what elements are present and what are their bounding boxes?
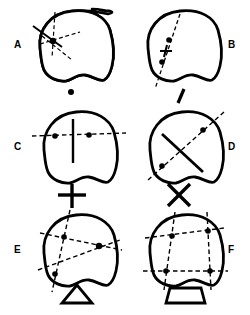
marked-point-c-2 <box>86 132 92 138</box>
marked-point-f-4 <box>207 268 213 274</box>
construction-dashed-c <box>32 133 126 136</box>
marked-point-f-2 <box>205 228 211 234</box>
marked-point-f-3 <box>163 268 169 274</box>
marked-point-d-2 <box>200 127 206 133</box>
panel-label-f: F <box>228 245 234 255</box>
line-symbol <box>178 89 184 103</box>
marked-point-b-2 <box>159 59 165 65</box>
panel-label-a: A <box>14 40 21 50</box>
marked-point-e-2 <box>52 271 58 277</box>
figure-root: A B C D E F <box>0 0 250 315</box>
blob-outline-a <box>40 9 114 81</box>
marked-point-e-1 <box>61 234 67 240</box>
marked-point-e-3 <box>96 243 102 249</box>
trapezoid-symbol <box>166 288 205 303</box>
panel-label-b: B <box>228 40 235 50</box>
blob-outline-e <box>44 215 118 286</box>
plus-symbol <box>58 184 86 208</box>
tick-cross-b <box>160 45 172 57</box>
marked-point-c-1 <box>52 133 58 139</box>
construction-lines-b <box>155 14 180 89</box>
construction-solid-d <box>162 134 203 172</box>
construction-solid-a <box>33 26 62 47</box>
triangle-symbol <box>62 285 92 303</box>
marked-point-b-1 <box>166 37 172 43</box>
point-symbol <box>68 89 74 95</box>
blob-outline-b <box>148 11 222 81</box>
construction-lines-f <box>143 212 228 290</box>
panel-label-d: D <box>228 142 235 152</box>
marked-point-d-1 <box>159 163 165 169</box>
construction-lines-e <box>38 210 122 292</box>
panel-label-c: C <box>14 142 21 152</box>
symbol-layer <box>0 0 250 315</box>
construction-lines-a <box>40 12 80 60</box>
blob-outline-f <box>150 215 224 286</box>
blob-outline-d <box>150 112 224 183</box>
cross-symbol <box>168 184 190 206</box>
blob-outline-c <box>44 112 118 183</box>
marked-point-f-1 <box>169 233 175 239</box>
construction-dashed-d <box>148 112 224 180</box>
marked-point-a-1 <box>50 38 56 44</box>
panel-label-e: E <box>14 245 21 255</box>
